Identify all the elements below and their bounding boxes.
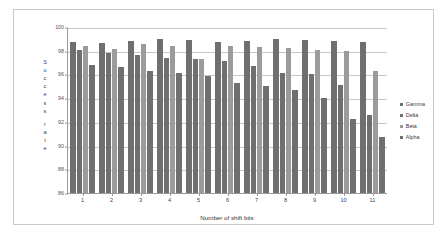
x-tick-label: 11 xyxy=(358,198,387,204)
bar-gamma xyxy=(70,42,76,193)
bar-beta xyxy=(373,71,379,193)
legend-label: Alpha xyxy=(406,135,420,140)
bar-gamma xyxy=(186,40,192,193)
bar-group: 6 xyxy=(213,28,242,193)
x-tick-mark xyxy=(228,193,229,196)
x-tick-label: 1 xyxy=(68,198,97,204)
y-axis-title-letter: e xyxy=(40,144,50,152)
bar-delta xyxy=(251,66,257,193)
y-axis-title-letter: a xyxy=(40,128,50,136)
bar-group: 5 xyxy=(184,28,213,193)
x-tick-mark xyxy=(83,193,84,196)
y-tick-label: 98 xyxy=(58,49,64,54)
bar-gamma xyxy=(331,41,337,193)
x-tick-label: 7 xyxy=(242,198,271,204)
legend-swatch-icon xyxy=(400,125,403,128)
x-tick-label: 5 xyxy=(184,198,213,204)
legend-label: Delta xyxy=(406,113,419,118)
legend-swatch-icon xyxy=(400,103,403,106)
bar-beta xyxy=(112,49,118,193)
plot-area: 86889092949698100 1234567891011 xyxy=(67,28,387,194)
bar-alpha xyxy=(205,76,211,193)
x-tick-mark xyxy=(170,193,171,196)
bar-group: 10 xyxy=(329,28,358,193)
bar-delta xyxy=(164,58,170,193)
bar-delta xyxy=(367,115,373,193)
bar-gamma xyxy=(273,39,279,193)
x-tick-mark xyxy=(373,193,374,196)
bar-alpha xyxy=(263,86,269,193)
bar-gamma xyxy=(157,39,163,193)
x-axis-title: Number of shift bits xyxy=(67,215,387,221)
x-tick-label: 2 xyxy=(97,198,126,204)
bar-delta xyxy=(135,55,141,193)
y-axis-title-letter: S xyxy=(40,58,50,66)
bar-alpha xyxy=(292,90,298,193)
bar-group: 1 xyxy=(68,28,97,193)
y-axis-title-letter: r xyxy=(40,120,50,128)
y-tick-label: 88 xyxy=(58,168,64,173)
bar-gamma xyxy=(302,40,308,193)
bar-gamma xyxy=(128,41,134,193)
bar-beta xyxy=(257,47,263,193)
y-tick-label: 96 xyxy=(58,73,64,78)
x-tick-label: 6 xyxy=(213,198,242,204)
bar-beta xyxy=(344,51,350,193)
bar-gamma xyxy=(244,41,250,193)
legend-item-gamma[interactable]: Gamma xyxy=(400,102,447,107)
bar-group: 11 xyxy=(358,28,387,193)
bar-group: 4 xyxy=(155,28,184,193)
chart-root: Successrate 86889092949698100 1234567891… xyxy=(0,0,447,246)
bars-layer: 1234567891011 xyxy=(68,28,387,193)
bar-beta xyxy=(170,46,176,193)
bar-gamma xyxy=(360,42,366,193)
bar-delta xyxy=(309,74,315,193)
bar-beta xyxy=(315,50,321,193)
bar-gamma xyxy=(215,42,221,193)
bar-alpha xyxy=(147,71,153,193)
legend-item-alpha[interactable]: Alpha xyxy=(400,135,447,140)
x-tick-label: 8 xyxy=(271,198,300,204)
x-tick-mark xyxy=(141,193,142,196)
bar-alpha xyxy=(321,98,327,193)
legend-swatch-icon xyxy=(400,136,403,139)
bar-alpha xyxy=(350,119,356,193)
bar-group: 2 xyxy=(97,28,126,193)
x-tick-label: 9 xyxy=(300,198,329,204)
legend-label: Gamma xyxy=(406,102,425,107)
legend-item-beta[interactable]: Beta xyxy=(400,124,447,129)
bar-beta xyxy=(286,48,292,193)
x-tick-label: 10 xyxy=(329,198,358,204)
x-tick-label: 3 xyxy=(126,198,155,204)
y-tick-mark xyxy=(65,194,68,195)
y-tick-label: 100 xyxy=(55,25,64,30)
legend-label: Beta xyxy=(406,124,417,129)
bar-group: 3 xyxy=(126,28,155,193)
y-axis-title-letter: s xyxy=(40,107,50,115)
y-axis-title-letter: c xyxy=(40,82,50,90)
x-tick-mark xyxy=(286,193,287,196)
legend-item-delta[interactable]: Delta xyxy=(400,113,447,118)
bar-beta xyxy=(199,59,205,193)
y-tick-label: 86 xyxy=(58,191,64,196)
x-tick-mark xyxy=(199,193,200,196)
bar-delta xyxy=(338,85,344,193)
bar-alpha xyxy=(176,73,182,193)
bar-alpha xyxy=(234,83,240,193)
bar-group: 9 xyxy=(300,28,329,193)
bar-delta xyxy=(106,53,112,194)
bar-gamma xyxy=(99,43,105,193)
bar-beta xyxy=(83,46,89,193)
bar-beta xyxy=(141,44,147,193)
y-axis-title-letter: u xyxy=(40,66,50,74)
chart-frame: Successrate 86889092949698100 1234567891… xyxy=(13,9,434,225)
y-axis-title-letter: c xyxy=(40,74,50,82)
bar-delta xyxy=(77,50,83,193)
y-tick-label: 90 xyxy=(58,144,64,149)
bar-delta xyxy=(193,59,199,193)
y-axis-title-letter: e xyxy=(40,90,50,98)
y-tick-label: 92 xyxy=(58,120,64,125)
bar-alpha xyxy=(379,137,385,193)
bar-alpha xyxy=(89,65,95,193)
y-axis-title: Successrate xyxy=(40,58,50,152)
